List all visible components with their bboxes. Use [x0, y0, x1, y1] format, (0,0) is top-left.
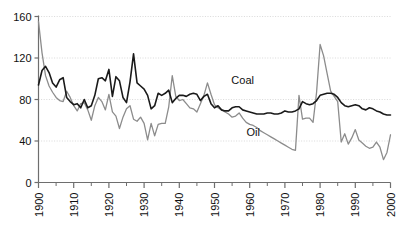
x-tick-label: 1990	[349, 193, 361, 217]
chart-container: 04080120160 1900191019201930194019501960…	[0, 0, 402, 233]
y-tick-label: 120	[13, 52, 31, 64]
y-tick-label: 40	[19, 135, 31, 147]
x-tick-label: 1940	[173, 193, 185, 217]
x-tick-label: 1970	[279, 193, 291, 217]
chart-background	[0, 0, 402, 233]
y-tick-label: 0	[25, 177, 31, 189]
line-chart: 04080120160 1900191019201930194019501960…	[0, 0, 402, 233]
y-tick-label: 160	[13, 11, 31, 23]
x-tick-label: 1900	[33, 193, 45, 217]
annotation-coal: Coal	[231, 74, 254, 86]
x-tick-label: 1950	[209, 193, 221, 217]
x-tick-label: 1910	[68, 193, 80, 217]
x-tick-label: 1980	[314, 193, 326, 217]
annotation-oil: Oil	[246, 126, 259, 138]
x-tick-label: 1930	[138, 193, 150, 217]
x-tick-label: 1920	[103, 193, 115, 217]
y-tick-label: 80	[19, 94, 31, 106]
x-tick-label: 1960	[244, 193, 256, 217]
x-tick-label: 2000	[385, 193, 397, 217]
